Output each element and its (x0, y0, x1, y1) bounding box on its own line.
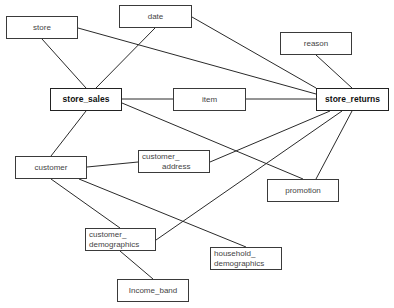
entity-label: item (202, 95, 217, 105)
entity-label: reason (304, 39, 328, 49)
edge-customer_address-store_returns (210, 111, 330, 162)
entity-label: date (148, 12, 164, 22)
edge-customer-customer_demographics (51, 179, 120, 228)
entity-label: store_returns (325, 94, 380, 104)
entity-label: Income_band (129, 286, 177, 296)
entity-store-sales: store_sales (50, 88, 122, 111)
edge-store_returns-promotion (316, 111, 352, 179)
entity-reason: reason (280, 32, 352, 55)
entity-customer-demographics: customer_ demographics (85, 228, 156, 251)
entity-label-line1: household_ (214, 249, 255, 259)
edge-customer_demographics-income_band (120, 251, 153, 279)
entity-store-returns: store_returns (316, 88, 389, 111)
entity-label-line2: demographics (214, 259, 264, 269)
edge-reason-store_returns (316, 55, 352, 88)
er-diagram: store date reason store_sales item store… (0, 0, 394, 308)
entity-income-band: Income_band (117, 279, 189, 302)
entity-label: store (33, 23, 51, 33)
entity-household-demographics: household_ demographics (210, 247, 282, 270)
entity-label-line1: customer_ (142, 152, 179, 162)
entity-label: customer (35, 163, 68, 173)
entity-label: promotion (285, 186, 321, 196)
entity-item: item (173, 88, 246, 111)
entity-customer: customer (15, 156, 87, 179)
entity-label-line2: address (162, 162, 190, 172)
edge-store_returns-customer_demographics (156, 111, 342, 240)
entity-label-line2: demographics (89, 240, 139, 250)
entity-label-line1: customer_ (89, 230, 126, 240)
entity-store: store (6, 16, 78, 39)
entity-promotion: promotion (267, 179, 339, 202)
entity-date: date (119, 5, 192, 28)
entity-label: store_sales (63, 94, 110, 104)
edge-date-store_sales (96, 28, 155, 88)
edge-store-store_sales (42, 39, 86, 88)
edge-customer-customer_address (87, 162, 138, 167)
edge-store_sales-customer (51, 111, 86, 156)
entity-customer-address: customer_ address (138, 150, 210, 173)
